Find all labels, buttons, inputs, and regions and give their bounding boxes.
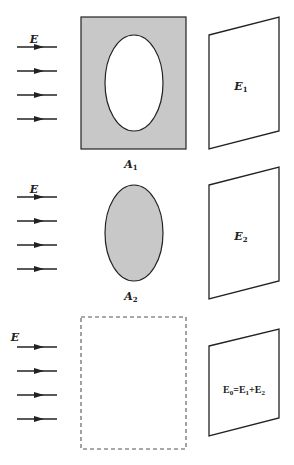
incident-field-arrows — [17, 344, 57, 422]
panel-3: E E0=E1+E2 — [10, 317, 279, 449]
aperture-label: A1 — [123, 158, 138, 172]
no-obstacle-outline — [81, 317, 186, 449]
arrowhead-icon — [34, 392, 44, 398]
field-label: E — [29, 33, 39, 46]
opaque-elliptical-disk — [105, 185, 163, 281]
incident-field-arrows — [17, 194, 57, 272]
observation-screen — [209, 167, 279, 299]
arrowhead-icon — [34, 368, 44, 374]
arrowhead-icon — [34, 266, 44, 272]
incident-field-arrows — [17, 44, 57, 122]
opaque-plate-with-hole — [81, 17, 186, 149]
field-label: E — [29, 183, 39, 196]
field-label: E — [10, 331, 20, 344]
observation-screen — [209, 329, 279, 436]
panel-2: E A2 E2 — [17, 167, 279, 304]
arrowhead-icon — [34, 92, 44, 98]
arrowhead-icon — [34, 68, 44, 74]
observation-screen — [209, 17, 279, 149]
arrowhead-icon — [34, 416, 44, 422]
arrowhead-icon — [34, 116, 44, 122]
arrowhead-icon — [34, 218, 44, 224]
babinet-principle-diagram: E A1 E1 E A2 E2 — [0, 0, 294, 465]
arrowhead-icon — [34, 344, 44, 350]
elliptical-aperture — [105, 35, 163, 131]
panel-1: E A1 E1 — [17, 17, 279, 172]
aperture-label: A2 — [123, 290, 138, 304]
arrowhead-icon — [34, 242, 44, 248]
